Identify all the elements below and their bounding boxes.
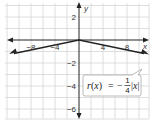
- y-tick-label: 2: [72, 13, 77, 22]
- equation-minus: −: [117, 80, 123, 91]
- y-tick-label: −2: [67, 59, 77, 68]
- equation-callout: r(x) = − 1 4 |x|: [83, 69, 142, 96]
- y-tick-label: −6: [67, 105, 77, 114]
- svg-text:r(x): r(x): [87, 80, 102, 92]
- y-axis-up-arrow-icon: [77, 2, 82, 8]
- equation-equals: =: [108, 80, 114, 91]
- y-tick-label: −4: [67, 82, 77, 91]
- y-axis: [77, 2, 82, 119]
- x-axis-left-arrow-icon: [7, 38, 13, 43]
- equation-denominator: 4: [125, 86, 130, 95]
- y-axis-down-arrow-icon: [77, 113, 82, 119]
- svg-text:|x|: |x|: [131, 80, 139, 91]
- grid: [5, 3, 149, 119]
- equation-numerator: 1: [125, 76, 130, 85]
- graph: y x −8 −4 4 8 2 −2 −4 −6 r(x) = − 1 4 |x…: [0, 0, 152, 122]
